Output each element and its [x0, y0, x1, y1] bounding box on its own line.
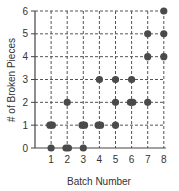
x-tick-label: 6: [129, 154, 135, 165]
data-point: [128, 76, 135, 83]
data-point: [64, 99, 71, 106]
data-point: [160, 7, 167, 14]
y-tick-label: 2: [22, 97, 28, 108]
data-point: [48, 144, 55, 151]
x-tick-label: 7: [145, 154, 151, 165]
data-point: [81, 122, 88, 129]
x-tick-label: 5: [113, 154, 119, 165]
data-point: [96, 76, 103, 83]
x-tick-label: 2: [64, 154, 70, 165]
data-point: [160, 30, 167, 37]
data-point: [144, 99, 151, 106]
data-point: [112, 122, 119, 129]
data-point: [49, 122, 56, 129]
y-tick-label: 4: [22, 51, 28, 62]
data-point: [144, 53, 151, 60]
data-point: [65, 144, 72, 151]
y-axis-ticks: 0123456: [22, 6, 35, 154]
x-tick-label: 3: [81, 154, 87, 165]
data-point: [80, 144, 87, 151]
y-tick-label: 3: [22, 74, 28, 85]
x-tick-label: 1: [48, 154, 54, 165]
x-axis-ticks: 12345678: [48, 154, 167, 165]
x-tick-label: 4: [97, 154, 103, 165]
data-point: [97, 122, 104, 129]
y-axis-label: # of Broken Pieces: [6, 38, 17, 122]
scatter-chart: 0123456 12345678 Batch Number # of Broke…: [0, 0, 179, 191]
y-tick-label: 0: [22, 143, 28, 154]
data-point: [160, 53, 167, 60]
x-tick-label: 8: [161, 154, 167, 165]
data-point: [129, 99, 136, 106]
x-axis-label: Batch Number: [67, 176, 132, 187]
data-point: [112, 99, 119, 106]
y-tick-label: 1: [22, 120, 28, 131]
data-point: [112, 76, 119, 83]
y-tick-label: 5: [22, 28, 28, 39]
y-tick-label: 6: [22, 6, 28, 17]
data-point: [144, 30, 151, 37]
